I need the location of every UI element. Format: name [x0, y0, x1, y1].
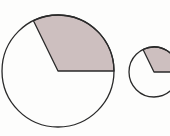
large-circle-shaded-sector [33, 15, 114, 71]
sector-diagram [0, 0, 170, 136]
large-circle-group [2, 15, 114, 127]
small-circle-group [129, 47, 170, 97]
